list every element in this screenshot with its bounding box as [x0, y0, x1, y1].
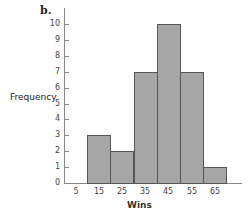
- y-tick: [65, 72, 69, 73]
- histogram-bar-65: [203, 167, 227, 184]
- y-tick: [65, 183, 69, 184]
- y-tick-label: 1: [46, 162, 60, 171]
- x-tick-label: 15: [89, 187, 109, 196]
- y-tick-label: 9: [46, 35, 60, 44]
- histogram-bar-55: [180, 72, 204, 184]
- y-tick: [65, 104, 69, 105]
- y-tick-label: 10: [46, 19, 60, 28]
- y-tick: [65, 88, 69, 89]
- histogram-bar-45: [157, 24, 181, 184]
- y-tick: [65, 151, 69, 152]
- x-tick-label: 55: [182, 187, 202, 196]
- histogram-bar-25: [110, 151, 134, 184]
- x-tick-label: 25: [112, 187, 132, 196]
- y-tick: [65, 167, 69, 168]
- y-tick: [65, 56, 69, 57]
- y-tick: [65, 40, 69, 41]
- y-tick: [65, 119, 69, 120]
- y-tick-label: 2: [46, 146, 60, 155]
- y-tick-label: 3: [46, 130, 60, 139]
- y-tick-label: 7: [46, 67, 60, 76]
- x-tick-label: 65: [205, 187, 225, 196]
- x-axis-label: Wins: [127, 200, 152, 210]
- y-tick: [65, 135, 69, 136]
- y-tick-label: 8: [46, 51, 60, 60]
- y-tick-label: 6: [46, 83, 60, 92]
- y-tick-label: 5: [46, 99, 60, 108]
- histogram-bar-15: [87, 135, 111, 184]
- y-tick-label: 4: [46, 114, 60, 123]
- panel-label: b.: [40, 4, 52, 17]
- x-tick-label: 5: [66, 187, 86, 196]
- y-axis: [64, 8, 65, 184]
- y-tick: [65, 24, 69, 25]
- histogram-bar-35: [134, 72, 158, 184]
- x-tick-label: 35: [135, 187, 155, 196]
- x-tick-label: 45: [158, 187, 178, 196]
- y-tick-label: 0: [46, 178, 60, 187]
